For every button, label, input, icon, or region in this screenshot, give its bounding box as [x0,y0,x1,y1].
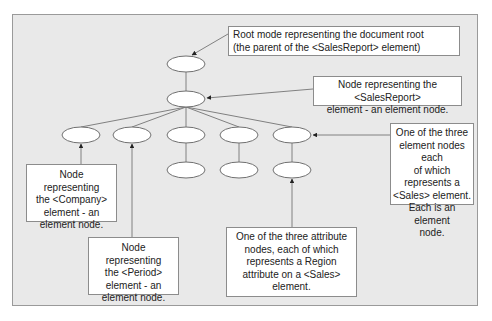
callout-text: element nodes each [393,140,471,165]
node-period [113,127,151,143]
callout-text: Root mode representing the document root [233,29,455,42]
node-document-root [167,56,205,72]
callout-region-attribute: One of the three attribute nodes, each o… [226,227,357,297]
callout-text: element. [231,281,352,294]
callout-text: of which represents a [393,165,471,190]
node-salesreport [167,91,205,107]
callout-document-root: Root mode representing the document root… [228,26,460,56]
callout-text: the <Period> [93,267,174,280]
callout-period: Node representing the <Period> element -… [88,237,179,295]
node-sales-1 [167,127,205,143]
node-region-attr-3 [273,162,311,178]
callout-text: Node representing the <SalesReport> [318,79,457,104]
callout-text: nodes, each of which [231,244,352,257]
callout-text: element - an [31,207,112,220]
callout-text: attribute on a <Sales> [231,269,352,282]
node-region-attr-1 [167,162,205,178]
callout-text: element node. [31,219,112,232]
node-sales-3 [273,127,311,143]
node-sales-2 [220,127,258,143]
callout-text: element - an [93,280,174,293]
callout-text: Node representing [93,242,174,267]
callout-salesreport: Node representing the <SalesReport> elem… [313,76,462,106]
callout-text: represents a Region [231,256,352,269]
tree-edges [81,72,292,162]
callout-text: node. [393,227,471,240]
callout-text: the <Company> [31,194,112,207]
callout-text: Each is an element [393,202,471,227]
callout-text: One of the three attribute [231,231,352,244]
callout-company: Node representing the <Company> element … [26,164,117,222]
callout-text: element - an element node. [318,104,457,117]
callout-text: One of the three [393,127,471,140]
node-company [62,127,100,143]
callout-sales-element: One of the three element nodes each of w… [390,123,474,205]
callout-text: (the parent of the <SalesReport> element… [233,42,455,55]
callout-text: Node representing [31,169,112,194]
callout-text: element node. [93,292,174,305]
node-region-attr-2 [220,162,258,178]
callout-text: <Sales> element. [393,190,471,203]
